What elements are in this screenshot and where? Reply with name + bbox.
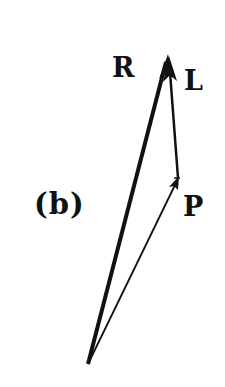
vector-p [88,176,179,364]
vector-diagram: R L P (b) [0,0,225,387]
label-p: P [183,193,203,220]
vector-r [88,54,173,364]
label-l: L [184,67,203,94]
panel-label: (b) [34,190,85,219]
vector-l [163,56,178,178]
label-r: R [112,54,134,81]
